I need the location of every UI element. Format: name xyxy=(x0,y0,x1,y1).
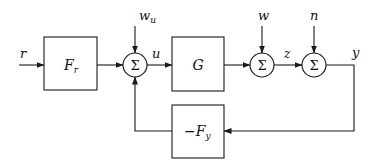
label-r: r xyxy=(20,46,27,61)
signal-r: r xyxy=(19,46,44,65)
signal-u: u xyxy=(147,46,172,65)
sum1-symbol: Σ xyxy=(130,58,139,73)
feedback-path-y-to-Fy xyxy=(224,65,354,131)
block-G: G xyxy=(172,37,224,91)
signal-n: n xyxy=(310,8,318,53)
block-Fr: Fr xyxy=(44,37,97,90)
block-Fr-sub: r xyxy=(74,65,79,75)
label-wu: wu xyxy=(139,8,156,25)
sum2-symbol: Σ xyxy=(257,58,266,73)
signal-w: w xyxy=(258,8,269,53)
block-Fy: −Fy xyxy=(172,105,224,158)
label-wu-sub: u xyxy=(150,15,156,25)
label-y: y xyxy=(351,45,360,60)
signal-z: z xyxy=(274,47,302,65)
sum3-symbol: Σ xyxy=(309,58,318,73)
summing-junction-3: Σ xyxy=(302,53,326,77)
label-n: n xyxy=(310,8,318,23)
block-diagram: r Fr wu Σ u G w Σ z xyxy=(0,0,376,165)
label-w: w xyxy=(258,8,269,23)
arrow-Fy-to-sum1 xyxy=(135,77,172,131)
label-z: z xyxy=(283,47,291,61)
label-wu-main: w xyxy=(139,8,150,23)
label-u: u xyxy=(152,46,160,61)
block-G-label: G xyxy=(192,57,203,73)
block-Fy-sub: y xyxy=(204,131,211,141)
signal-y: y xyxy=(224,45,360,131)
summing-junction-2: Σ xyxy=(250,53,274,77)
block-Fy-prefix: − xyxy=(184,123,196,139)
summing-junction-1: Σ xyxy=(123,53,147,77)
